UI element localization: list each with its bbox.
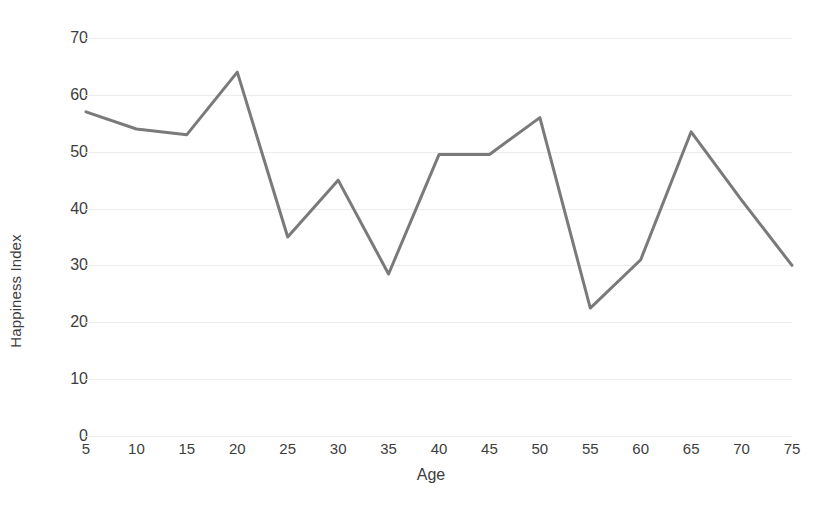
- gridline: [86, 436, 792, 437]
- line-chart: Happiness Index 010203040506070 51015202…: [0, 0, 826, 522]
- y-axis-tick-label: 30: [52, 257, 88, 273]
- y-axis-tick-label: 40: [52, 201, 88, 217]
- y-axis-tick-label: 10: [52, 371, 88, 387]
- series-line-happiness-index: [86, 72, 792, 308]
- y-axis-title: Happiness Index: [0, 0, 30, 522]
- series-layer: [86, 38, 792, 436]
- y-axis-tick-label: 50: [52, 144, 88, 160]
- y-axis-title-label: Happiness Index: [7, 234, 24, 347]
- y-axis-tick-label: 60: [52, 87, 88, 103]
- y-axis-tick-label: 70: [52, 30, 88, 46]
- x-axis-title: Age: [78, 466, 784, 484]
- y-axis-tick-label: 20: [52, 314, 88, 330]
- x-axis-tick-label: 75: [762, 441, 822, 456]
- plot-area: [86, 38, 792, 436]
